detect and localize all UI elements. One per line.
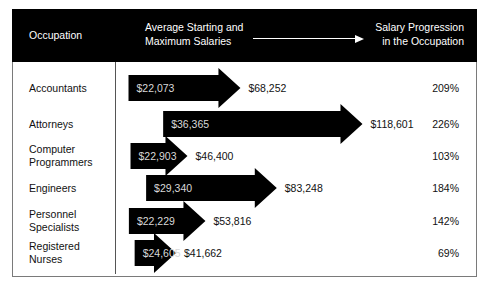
starting-salary: $24,605 bbox=[143, 247, 181, 259]
starting-salary: $22,229 bbox=[137, 215, 175, 227]
salary-arrow: $36,365 bbox=[163, 104, 362, 144]
starting-salary: $22,903 bbox=[139, 150, 177, 162]
salary-arrows: $22,073$36,365$22,903$29,340$22,229$24,6… bbox=[0, 0, 488, 290]
salary-arrow: $24,605 bbox=[135, 233, 181, 273]
salary-arrow: $22,903 bbox=[131, 136, 188, 176]
starting-salary: $29,340 bbox=[154, 182, 192, 194]
starting-salary: $22,073 bbox=[137, 82, 175, 94]
salary-arrow: $22,073 bbox=[129, 68, 241, 108]
salary-arrow: $22,229 bbox=[129, 201, 206, 241]
starting-salary: $36,365 bbox=[171, 118, 209, 130]
